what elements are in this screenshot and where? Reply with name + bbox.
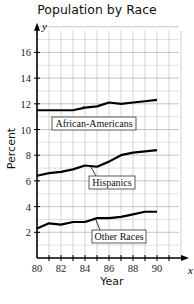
line-chart: xy808284868890246810121416African-Americ… (0, 0, 194, 304)
y-tick-label: 14 (21, 73, 32, 84)
y-tick-label: 12 (21, 99, 32, 110)
y-tick-label: 16 (21, 47, 32, 58)
y-tick-label: 10 (21, 125, 32, 136)
x-tick-label: 80 (32, 263, 43, 274)
x-tick-label: 88 (128, 263, 139, 274)
y-tick-label: 6 (26, 176, 31, 187)
series-label: Other Races (94, 231, 143, 242)
y-tick-label: 2 (26, 227, 31, 238)
x-tick-label: 84 (80, 263, 91, 274)
x-tick-label: 86 (104, 263, 115, 274)
y-axis-variable: y (41, 20, 47, 32)
x-axis-arrow-icon (181, 255, 189, 261)
x-tick-label: 90 (152, 263, 163, 274)
y-tick-label: 4 (26, 202, 32, 213)
y-tick-label: 8 (26, 150, 31, 161)
series-label: Hispanics (92, 177, 132, 188)
x-axis-variable: x (187, 264, 193, 276)
series-label: African-Americans (55, 118, 132, 129)
x-tick-label: 82 (56, 263, 67, 274)
